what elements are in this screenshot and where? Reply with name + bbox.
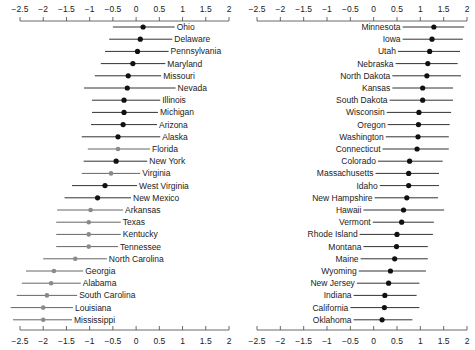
point-estimate-marker bbox=[116, 147, 121, 152]
estimate-row: Hawaii bbox=[336, 205, 444, 215]
estimate-row: Washington bbox=[339, 132, 449, 142]
estimate-row: Georgia bbox=[26, 266, 116, 276]
tick-label: 1 bbox=[180, 336, 185, 346]
point-estimate-marker bbox=[121, 110, 126, 115]
state-label: West Virginia bbox=[139, 181, 189, 191]
estimate-row: Iowa bbox=[383, 34, 463, 44]
bottom-x-axis: −2.5−2−1.5−1−0.500.511.52 bbox=[249, 326, 470, 346]
point-estimate-marker bbox=[73, 257, 78, 262]
tick-label: 1 bbox=[418, 336, 423, 346]
tick-label: −1.5 bbox=[58, 336, 75, 346]
state-label: Georgia bbox=[85, 266, 116, 276]
state-label: Wyoming bbox=[321, 266, 357, 276]
left-panel: −2.5−2−1.5−1−0.500.511.52−2.5−2−1.5−1−0.… bbox=[11, 4, 232, 346]
estimate-row: Oregon bbox=[357, 120, 449, 130]
state-label: Texas bbox=[123, 217, 145, 227]
estimate-row: Tennessee bbox=[56, 242, 161, 252]
point-estimate-marker bbox=[429, 37, 434, 42]
tick-label: −1.5 bbox=[295, 336, 312, 346]
point-estimate-marker bbox=[114, 159, 119, 164]
estimate-row: Utah bbox=[378, 46, 460, 56]
point-estimate-marker bbox=[52, 269, 57, 274]
point-estimate-marker bbox=[406, 171, 411, 176]
estimate-row: New Jersey bbox=[310, 278, 419, 288]
estimate-row: Ohio bbox=[113, 22, 195, 32]
estimate-row: Arizona bbox=[91, 120, 188, 130]
state-label: Hawaii bbox=[336, 205, 362, 215]
estimate-row: Wyoming bbox=[321, 266, 426, 276]
state-label: Connecticut bbox=[336, 144, 382, 154]
state-label: Kansas bbox=[362, 83, 390, 93]
estimate-row: Alabama bbox=[22, 278, 117, 288]
estimate-row: Kansas bbox=[362, 83, 453, 93]
tick-label: 1.5 bbox=[438, 336, 450, 346]
state-label: Alaska bbox=[162, 132, 188, 142]
point-estimate-marker bbox=[401, 207, 406, 212]
tick-label: −0.5 bbox=[104, 336, 121, 346]
estimate-row: Virginia bbox=[82, 168, 171, 178]
tick-label: −0.5 bbox=[342, 336, 359, 346]
estimate-row: South Dakota bbox=[336, 95, 453, 105]
state-label: Florida bbox=[152, 144, 178, 154]
tick-label: 0 bbox=[134, 336, 139, 346]
tick-label: −2 bbox=[38, 336, 48, 346]
tick-label: −1 bbox=[85, 336, 95, 346]
point-estimate-marker bbox=[49, 281, 54, 286]
tick-label: −0.5 bbox=[104, 4, 121, 14]
estimate-row: Wisconsin bbox=[346, 107, 451, 117]
state-label: Oregon bbox=[357, 120, 386, 130]
state-label: Pennsylvania bbox=[171, 46, 222, 56]
point-estimate-marker bbox=[425, 61, 430, 66]
tick-label: 0.5 bbox=[391, 336, 403, 346]
state-label: Wisconsin bbox=[346, 107, 385, 117]
top-x-axis: −2.5−2−1.5−1−0.500.511.52 bbox=[12, 4, 232, 21]
tick-label: −1 bbox=[322, 336, 332, 346]
estimate-row: North Dakota bbox=[340, 71, 461, 81]
point-estimate-marker bbox=[415, 134, 420, 139]
tick-label: 2 bbox=[465, 4, 470, 14]
estimate-row: Illinois bbox=[92, 95, 186, 105]
point-estimate-marker bbox=[45, 293, 50, 298]
point-estimate-marker bbox=[406, 183, 411, 188]
state-label: Massachusetts bbox=[317, 168, 374, 178]
tick-label: 0.5 bbox=[153, 336, 165, 346]
point-estimate-marker bbox=[399, 220, 404, 225]
tick-label: 0.5 bbox=[153, 4, 165, 14]
estimate-row: Maryland bbox=[101, 59, 203, 69]
state-label: Montana bbox=[328, 242, 361, 252]
point-estimate-marker bbox=[115, 134, 120, 139]
estimate-row: Rhode Island bbox=[308, 229, 433, 239]
tick-label: −2 bbox=[275, 4, 285, 14]
estimate-row: New York bbox=[84, 156, 186, 166]
estimate-row: Nebraska bbox=[357, 59, 457, 69]
estimate-row: Idaho bbox=[356, 181, 439, 191]
forest-plot-svg: −2.5−2−1.5−1−0.500.511.52−2.5−2−1.5−1−0.… bbox=[0, 0, 475, 350]
state-label: South Dakota bbox=[336, 95, 388, 105]
estimate-row: Michigan bbox=[92, 107, 194, 117]
point-estimate-marker bbox=[41, 305, 46, 310]
point-estimate-marker bbox=[379, 317, 384, 322]
state-label: Minnesota bbox=[361, 22, 400, 32]
estimate-row: Minnesota bbox=[361, 22, 464, 32]
tick-label: 0.5 bbox=[391, 4, 403, 14]
point-estimate-marker bbox=[416, 110, 421, 115]
tick-label: −0.5 bbox=[342, 4, 359, 14]
point-estimate-marker bbox=[95, 195, 100, 200]
point-estimate-marker bbox=[121, 98, 126, 103]
tick-label: 0 bbox=[371, 336, 376, 346]
tick-label: −1 bbox=[85, 4, 95, 14]
point-estimate-marker bbox=[126, 73, 131, 78]
point-estimate-marker bbox=[86, 244, 91, 249]
tick-label: 1 bbox=[418, 4, 423, 14]
point-estimate-marker bbox=[388, 268, 393, 273]
point-estimate-marker bbox=[414, 146, 419, 151]
forest-plot-figure: −2.5−2−1.5−1−0.500.511.52−2.5−2−1.5−1−0.… bbox=[0, 0, 475, 350]
estimate-row: Connecticut bbox=[336, 144, 449, 154]
point-estimate-marker bbox=[416, 122, 421, 127]
point-estimate-marker bbox=[392, 256, 397, 261]
state-label: Colorado bbox=[341, 156, 376, 166]
point-estimate-marker bbox=[427, 49, 432, 54]
point-estimate-marker bbox=[386, 281, 391, 286]
point-estimate-marker bbox=[140, 24, 145, 29]
point-estimate-marker bbox=[138, 37, 143, 42]
